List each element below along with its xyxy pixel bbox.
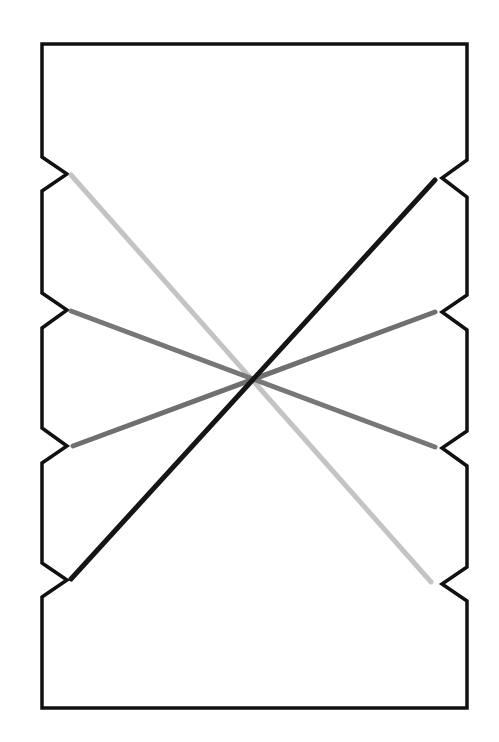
background (0, 0, 499, 742)
notched-rectangle-diagram (0, 0, 499, 742)
